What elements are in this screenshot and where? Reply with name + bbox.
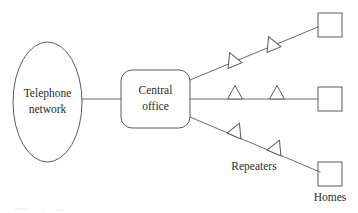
home-bottom-node xyxy=(318,162,342,186)
home-middle-node xyxy=(318,87,342,111)
link-office-to-home-top xyxy=(190,27,318,80)
telephone-network-label-line1: Telephone xyxy=(24,87,72,100)
home-top-node xyxy=(318,13,342,37)
repeater-bottom-2 xyxy=(267,137,286,156)
diagram-canvas: Telephone network Central office Repeate… xyxy=(0,0,358,213)
repeater-bottom-1 xyxy=(227,120,246,139)
telephone-network-label-line2: network xyxy=(29,103,67,115)
homes-label: Homes xyxy=(314,191,347,203)
network-diagram: Telephone network Central office Repeate… xyxy=(0,0,358,213)
repeaters-label: Repeaters xyxy=(231,160,277,173)
scan-artifact xyxy=(40,207,44,212)
central-office-label-line2: office xyxy=(142,100,169,112)
repeater-middle-2 xyxy=(270,86,285,100)
central-office-label-line1: Central xyxy=(139,84,173,96)
repeater-middle-1 xyxy=(228,86,243,100)
